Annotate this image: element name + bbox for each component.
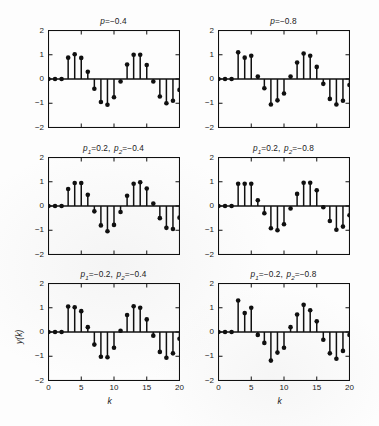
stem-panel: p1=0.2, p2=−0.8210−1−2 bbox=[184, 143, 355, 264]
x-axis-label: k bbox=[278, 396, 282, 406]
stem-series bbox=[218, 298, 350, 363]
y-tick-label: 0 bbox=[20, 75, 44, 83]
axes-box bbox=[48, 157, 180, 255]
x-axis-label: k bbox=[108, 396, 112, 406]
y-tick-label: 1 bbox=[20, 304, 44, 312]
y-tick-label: 2 bbox=[190, 27, 214, 35]
panel-title: p1=−0.2, p2=−0.4 bbox=[48, 269, 179, 283]
x-tick-label: 15 bbox=[135, 384, 159, 392]
panel-title: p1=−0.2, p2=−0.8 bbox=[218, 269, 349, 283]
y-tick-label: 1 bbox=[190, 304, 214, 312]
axes-box bbox=[48, 283, 180, 381]
x-tick-label: 10 bbox=[102, 384, 126, 392]
y-tick-label: 0 bbox=[190, 75, 214, 83]
panel-title: p1=0.2, p2=−0.8 bbox=[218, 143, 349, 157]
y-tick-label: −2 bbox=[20, 124, 44, 132]
y-tick-label: −1 bbox=[20, 352, 44, 360]
y-tick-label: 1 bbox=[20, 178, 44, 186]
x-tick-label: 5 bbox=[69, 384, 93, 392]
stem-panel: p=−0.8210−1−2 bbox=[184, 16, 355, 137]
stem-panel: p1=0.2, p2=−0.4210−1−2 bbox=[14, 143, 185, 264]
y-tick-label: 1 bbox=[190, 51, 214, 59]
stem-panel: p=−0.4210−1−2 bbox=[14, 16, 185, 137]
y-tick-label: −1 bbox=[190, 352, 214, 360]
y-tick-label: 0 bbox=[20, 202, 44, 210]
plot-canvas bbox=[48, 30, 180, 128]
y-tick-label: −1 bbox=[20, 99, 44, 107]
plot-canvas bbox=[218, 157, 350, 255]
plot-canvas bbox=[48, 157, 180, 255]
y-tick-label: 1 bbox=[20, 51, 44, 59]
stem-series bbox=[48, 304, 180, 360]
y-tick-label: −1 bbox=[190, 226, 214, 234]
y-tick-label: 2 bbox=[20, 154, 44, 162]
y-tick-label: 2 bbox=[20, 280, 44, 288]
y-tick-label: −1 bbox=[20, 226, 44, 234]
y-tick-label: 0 bbox=[190, 202, 214, 210]
y-tick-label: 1 bbox=[190, 178, 214, 186]
plot-canvas bbox=[48, 283, 180, 381]
y-tick-label: 2 bbox=[20, 27, 44, 35]
y-tick-label: −1 bbox=[190, 99, 214, 107]
axes-box bbox=[218, 30, 350, 128]
panel-title: p1=0.2, p2=−0.4 bbox=[48, 143, 179, 157]
stem-panel: p1=−0.2, p2=−0.4210−1−205101520ky(k) bbox=[14, 269, 185, 412]
y-tick-label: 2 bbox=[190, 154, 214, 162]
stem-panel: p1=−0.2, p2=−0.8210−1−205101520k bbox=[184, 269, 355, 412]
x-tick-label: 0 bbox=[37, 384, 61, 392]
figure-page: p=−0.4210−1−2p=−0.8210−1−2p1=0.2, p2=−0.… bbox=[0, 0, 379, 426]
y-axis-label: y(k) bbox=[14, 329, 24, 343]
y-tick-label: −2 bbox=[190, 124, 214, 132]
panel-title: p=−0.8 bbox=[218, 16, 349, 26]
x-tick-label: 20 bbox=[338, 384, 362, 392]
axes-box bbox=[218, 157, 350, 255]
y-tick-label: 0 bbox=[190, 328, 214, 336]
x-tick-label: 0 bbox=[207, 384, 231, 392]
x-tick-label: 10 bbox=[272, 384, 296, 392]
y-tick-label: 2 bbox=[190, 280, 214, 288]
stem-plot-grid: p=−0.4210−1−2p=−0.8210−1−2p1=0.2, p2=−0.… bbox=[0, 0, 379, 426]
x-tick-label: 15 bbox=[305, 384, 329, 392]
panel-title: p=−0.4 bbox=[48, 16, 179, 26]
y-tick-label: −2 bbox=[20, 251, 44, 259]
plot-canvas bbox=[218, 30, 350, 128]
plot-canvas bbox=[218, 283, 350, 381]
axes-box bbox=[48, 30, 180, 128]
y-tick-label: −2 bbox=[190, 251, 214, 259]
x-tick-label: 5 bbox=[239, 384, 263, 392]
axes-box bbox=[218, 283, 350, 381]
